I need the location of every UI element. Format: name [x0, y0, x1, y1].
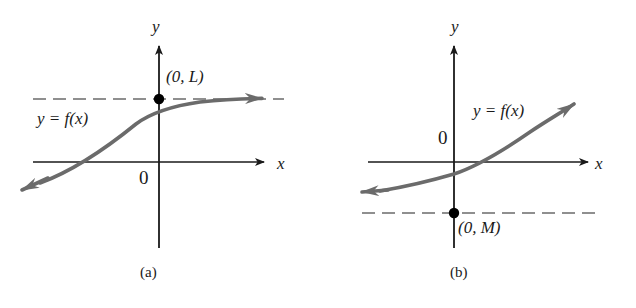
figure-panel-b: y x 0 (0, M) y = f(x) (b)	[318, 0, 636, 308]
function-curve-left-tail	[22, 178, 48, 190]
y-intercept-point	[154, 94, 164, 104]
y-intercept-label: (0, L)	[166, 68, 204, 85]
origin-label: 0	[139, 168, 149, 187]
y-intercept-label: (0, M)	[458, 219, 500, 236]
panel-caption-a: (a)	[140, 265, 157, 280]
x-axis-label: x	[277, 155, 285, 172]
origin-label: 0	[438, 128, 448, 147]
y-intercept-point	[449, 208, 459, 218]
x-axis-label: x	[595, 155, 603, 172]
function-curve-left-tail	[362, 190, 388, 192]
y-axis-label: y	[152, 18, 160, 35]
panel-caption-b: (b)	[450, 265, 468, 280]
panel-b-graph	[318, 0, 636, 308]
function-label: y = f(x)	[37, 110, 88, 127]
function-label: y = f(x)	[473, 102, 524, 119]
y-axis-label: y	[451, 18, 459, 35]
math-figure: y x 0 (0, L) y = f(x) (a)	[0, 0, 636, 308]
panel-a-graph	[0, 0, 318, 308]
figure-panel-a: y x 0 (0, L) y = f(x) (a)	[0, 0, 318, 308]
